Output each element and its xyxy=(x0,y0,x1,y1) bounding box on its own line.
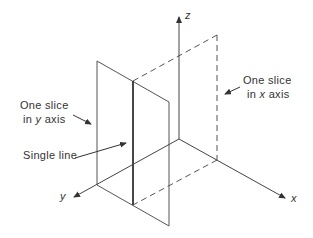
x-slice-pointer-arrow xyxy=(225,87,240,94)
axes xyxy=(74,17,285,198)
y-slice-label-line2: in y axis xyxy=(23,113,66,125)
x-slice-label-line2: in x axis xyxy=(247,88,290,100)
y-axis-label: y xyxy=(59,190,67,202)
x-slice-annotation: One slice in x axis xyxy=(225,74,292,100)
y-slice-annotation: One slice in y axis xyxy=(20,99,91,125)
single-line-annotation: Single line xyxy=(23,143,126,161)
x-axis-label: x xyxy=(290,192,297,204)
y-slice-pointer-arrow xyxy=(73,115,91,124)
x-axis xyxy=(179,139,285,198)
z-axis-label: z xyxy=(184,9,191,21)
slice-diagram: z x y One slice in y axis One slice in x… xyxy=(0,0,313,238)
x-slice-plane xyxy=(133,35,217,205)
y-slice-label-line1: One slice xyxy=(20,99,69,111)
single-line-pointer-arrow xyxy=(75,143,126,158)
x-slice-label-line1: One slice xyxy=(243,74,292,86)
single-line-label: Single line xyxy=(23,149,77,161)
